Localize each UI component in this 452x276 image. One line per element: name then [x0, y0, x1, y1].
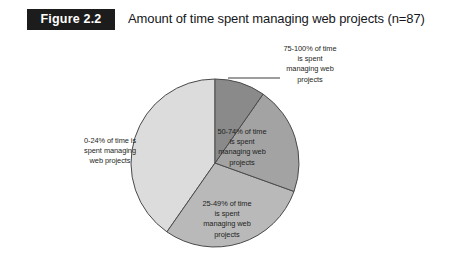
figure-number-badge: Figure 2.2	[27, 9, 115, 30]
figure-header: Figure 2.2 Amount of time spent managing…	[0, 0, 452, 40]
figure-container: Figure 2.2 Amount of time spent managing…	[0, 0, 452, 276]
figure-title: Amount of time spent managing web projec…	[128, 11, 425, 26]
pie-chart-svg	[0, 36, 452, 276]
pie-chart: 0-24% of time is spent managing web proj…	[0, 36, 452, 276]
pie-slice-label-75-100: 75-100% of time is spent managing web pr…	[262, 44, 358, 85]
